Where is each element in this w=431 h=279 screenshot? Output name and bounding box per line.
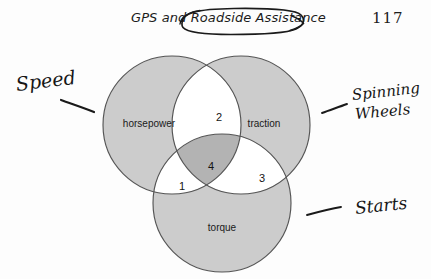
leader-spinning-wheels — [322, 104, 347, 113]
page-canvas: GPS and Roadside Assistance 117 — [0, 0, 431, 279]
annotation-leaders — [0, 0, 431, 279]
leader-starts — [307, 207, 341, 215]
leader-speed — [61, 100, 94, 112]
